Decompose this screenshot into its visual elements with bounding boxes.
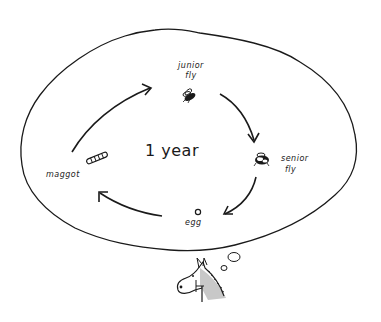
label-senior-fly-line1: senior: [281, 155, 321, 163]
arrow-maggot-to-junior-icon: [72, 84, 151, 152]
arrow-senior-to-egg-icon: [224, 177, 256, 214]
label-maggot-text: maggot: [46, 170, 80, 179]
thought-bubble-small-icon: [221, 266, 227, 271]
thought-bubble-drawing: [0, 0, 381, 322]
arrow-egg-to-maggot-icon: [99, 192, 162, 216]
label-maggot: maggot: [46, 171, 80, 179]
label-egg: egg: [185, 219, 202, 227]
center-label-text: 1 year: [145, 141, 199, 160]
maggot-icon: [86, 152, 108, 165]
label-senior-fly: senior fly: [281, 155, 321, 174]
egg-icon: [195, 209, 200, 214]
arrow-junior-to-senior-icon: [220, 94, 259, 142]
thought-bubble-large-icon: [228, 253, 240, 262]
center-label: 1 year: [145, 143, 199, 159]
label-senior-fly-line2: fly: [281, 166, 321, 174]
label-junior-fly-line1: junior: [174, 62, 208, 70]
label-egg-text: egg: [185, 218, 202, 227]
fat-fly-icon: [254, 153, 269, 166]
label-junior-fly: junior fly: [174, 62, 208, 80]
horse-head-icon: [177, 258, 226, 302]
diagram-canvas: junior fly senior fly egg maggot 1 year: [0, 0, 381, 322]
label-junior-fly-line2: fly: [174, 72, 208, 80]
fly-icon: [182, 88, 196, 103]
